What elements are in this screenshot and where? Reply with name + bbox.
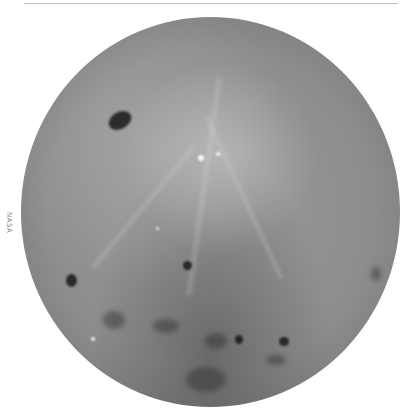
bright-crater-2: [216, 152, 220, 156]
dark-region-south-6: [266, 355, 286, 365]
top-divider: [24, 3, 398, 4]
dark-spot-south-4: [235, 335, 243, 344]
moon-disc: [21, 17, 400, 407]
dark-region-south-2: [153, 319, 179, 333]
dark-spot-east: [371, 267, 381, 281]
credit-label: NASA: [5, 212, 13, 233]
bright-crater-1: [198, 155, 204, 161]
bright-crater-4: [91, 337, 95, 341]
dark-region-south-1: [103, 311, 125, 329]
bright-crater-3: [156, 227, 159, 230]
dark-region-south-basin: [186, 367, 226, 392]
dark-crater-center: [183, 261, 192, 270]
ray-streak: [203, 114, 284, 279]
dark-spot-south-5: [279, 337, 289, 346]
ray-streak: [90, 144, 197, 270]
dark-region-south-3: [205, 333, 227, 349]
mare-moscoviense: [105, 107, 134, 134]
dark-crater-west: [66, 274, 77, 287]
